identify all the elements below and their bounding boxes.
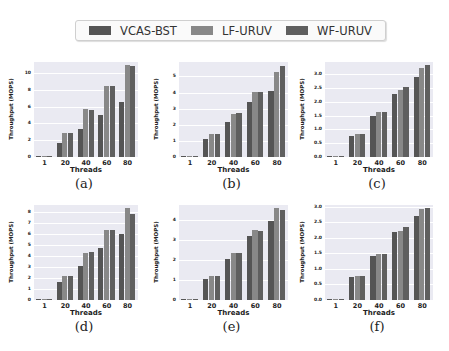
bar-lf-uruv (333, 156, 338, 157)
bar-wf-uruv (215, 134, 220, 157)
bar-wf-uruv (382, 254, 387, 300)
y-axis-label: Throughput (MOPS) (299, 202, 305, 302)
y-tick-label: 2.0 (308, 235, 322, 240)
bar-vcas-bst (247, 102, 252, 157)
figure-caption: (a) (64, 176, 104, 191)
bar-wf-uruv (193, 299, 198, 300)
y-tick-label: 3.0 (308, 71, 322, 76)
y-tick-label: 1.5 (308, 250, 322, 255)
bar-vcas-bst (327, 299, 332, 300)
bar-lf-uruv (398, 90, 403, 157)
bar-lf-uruv (187, 299, 192, 300)
y-tick-label: 0.0 (308, 297, 322, 302)
x-tick-label: 1 (34, 302, 54, 310)
bar-lf-uruv (274, 208, 279, 300)
bar-wf-uruv (258, 92, 263, 157)
y-axis-label: Throughput (MOPS) (153, 202, 159, 302)
bar-vcas-bst (36, 156, 41, 157)
x-tick-label: 80 (118, 159, 138, 167)
bar-vcas-bst (181, 299, 186, 300)
legend-swatch-lf-uruv (191, 26, 213, 35)
y-tick-label: 2.5 (308, 85, 322, 90)
figure-caption: (d) (64, 319, 104, 334)
bar-vcas-bst (370, 116, 375, 157)
bar-lf-uruv (42, 156, 47, 157)
x-tick-label: 80 (412, 302, 432, 310)
bar-lf-uruv (398, 231, 403, 300)
legend-label-vcas-bst: VCAS-BST (120, 24, 177, 38)
gridline (179, 300, 288, 301)
bar-vcas-bst (414, 77, 419, 157)
x-tick-label: 80 (267, 159, 287, 167)
figure-caption: (c) (357, 176, 397, 191)
legend-item-vcas-bst: VCAS-BST (89, 24, 177, 38)
bar-vcas-bst (78, 129, 83, 157)
y-tick-label: 4 (162, 90, 176, 95)
gridline (325, 207, 433, 208)
plot-area (34, 205, 138, 300)
y-axis-label: Throughput (MOPS) (8, 59, 14, 159)
x-axis-label: Threads (56, 309, 116, 317)
bar-vcas-bst (268, 221, 273, 300)
legend: VCAS-BST LF-URUV WF-URUV (75, 20, 386, 41)
bar-lf-uruv (209, 276, 214, 300)
bar-lf-uruv (231, 114, 236, 157)
bar-lf-uruv (274, 72, 279, 157)
x-axis-label: Threads (204, 309, 264, 317)
bar-wf-uruv (236, 253, 241, 300)
bar-lf-uruv (187, 156, 192, 157)
y-tick-label: 5 (162, 73, 176, 78)
bar-lf-uruv (42, 299, 47, 300)
bar-vcas-bst (327, 156, 332, 157)
bar-wf-uruv (258, 231, 263, 300)
gridline (325, 157, 433, 158)
bar-wf-uruv (339, 299, 344, 300)
y-tick-label: 6 (17, 104, 31, 109)
bar-wf-uruv (110, 86, 115, 157)
y-tick-label: 2 (17, 137, 31, 142)
y-tick-label: 0 (17, 154, 31, 159)
bar-vcas-bst (119, 234, 124, 300)
y-tick-label: 4 (17, 120, 31, 125)
legend-item-lf-uruv: LF-URUV (191, 24, 272, 38)
bar-vcas-bst (349, 277, 354, 300)
x-tick-label: 1 (180, 159, 200, 167)
y-tick-label: 3.0 (308, 204, 322, 209)
bar-vcas-bst (268, 91, 273, 157)
bar-wf-uruv (68, 133, 73, 157)
bar-lf-uruv (209, 134, 214, 157)
y-tick-label: 1.0 (308, 266, 322, 271)
gridline (34, 73, 138, 74)
bar-wf-uruv (215, 276, 220, 300)
plot-area (34, 62, 138, 157)
gridline (179, 76, 288, 77)
bar-vcas-bst (414, 216, 419, 300)
y-tick-label: 4 (162, 217, 176, 222)
bar-wf-uruv (47, 156, 52, 157)
bar-lf-uruv (104, 230, 109, 300)
bar-vcas-bst (349, 136, 354, 157)
bar-lf-uruv (62, 133, 67, 157)
y-tick-label: 6 (17, 231, 31, 236)
y-tick-label: 1 (162, 277, 176, 282)
x-tick-label: 80 (118, 302, 138, 310)
legend-swatch-vcas-bst (89, 26, 111, 35)
legend-swatch-wf-uruv (286, 26, 308, 35)
bar-lf-uruv (231, 253, 236, 300)
y-tick-label: 10 (17, 70, 31, 75)
bar-vcas-bst (119, 102, 124, 157)
gridline (34, 223, 138, 224)
bar-vcas-bst (57, 143, 62, 157)
y-tick-label: 1.0 (308, 126, 322, 131)
figure-caption: (f) (357, 319, 397, 334)
bar-lf-uruv (83, 253, 88, 300)
bar-vcas-bst (370, 256, 375, 300)
bar-vcas-bst (36, 299, 41, 300)
bar-wf-uruv (280, 210, 285, 300)
bar-lf-uruv (252, 92, 257, 157)
y-tick-label: 3 (162, 237, 176, 242)
bar-wf-uruv (89, 252, 94, 300)
bar-vcas-bst (225, 122, 230, 157)
y-tick-label: 2.5 (308, 219, 322, 224)
bar-wf-uruv (360, 276, 365, 300)
